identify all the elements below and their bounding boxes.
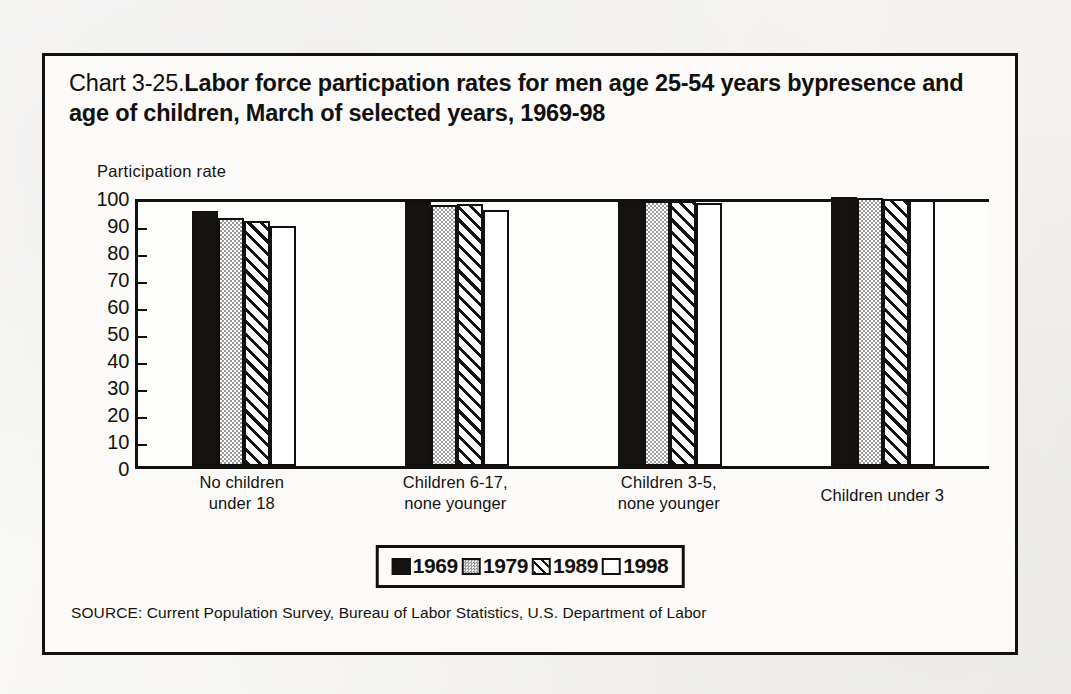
category-label-line: under 18	[135, 493, 349, 514]
y-tick-label: 10	[107, 431, 129, 454]
y-axis-tick-labels: 0102030405060708090100	[69, 199, 129, 469]
bar-1998-0	[270, 226, 296, 466]
y-tick-mark	[138, 363, 147, 365]
plot-area: 0102030405060708090100	[69, 199, 989, 469]
y-axis-label: Participation rate	[97, 162, 226, 181]
legend-label: 1989	[553, 554, 598, 578]
category-label-line: none younger	[349, 493, 563, 514]
y-tick-label: 100	[97, 188, 129, 211]
bar-1989-3	[883, 199, 909, 466]
bar-1979-0	[218, 218, 244, 466]
bar-group	[564, 202, 777, 466]
y-tick-mark	[138, 444, 147, 446]
y-tick-label: 60	[107, 296, 129, 319]
category-label-2: Children 3-5,none younger	[562, 472, 776, 532]
y-tick-mark	[138, 255, 147, 257]
bar-groups	[138, 202, 989, 466]
x-axis-category-labels: No childrenunder 18Children 6-17,none yo…	[135, 472, 989, 532]
bar-1989-2	[670, 201, 696, 466]
bar-1969-2	[618, 199, 644, 466]
y-tick-label: 90	[107, 215, 129, 238]
bar-1998-2	[696, 203, 722, 466]
y-tick-mark	[138, 309, 147, 311]
category-label-0: No childrenunder 18	[135, 472, 349, 532]
y-tick-label: 0	[118, 458, 129, 481]
category-label-3: Children under 3	[776, 472, 990, 532]
y-tick-mark	[138, 336, 147, 338]
gray-dither-swatch	[462, 558, 481, 575]
legend-entry-1979[interactable]: 1979	[462, 554, 528, 578]
bar-group	[138, 202, 351, 466]
bar-1979-3	[857, 198, 883, 466]
legend-label: 1969	[413, 554, 458, 578]
y-tick-label: 50	[107, 323, 129, 346]
chart-title: Chart 3-25.Labor force particpation rate…	[69, 68, 999, 128]
legend-entry-1998[interactable]: 1998	[602, 554, 668, 578]
category-label-line: Children under 3	[776, 485, 990, 506]
bar-1969-1	[405, 201, 431, 466]
y-tick-mark	[138, 390, 147, 392]
category-label-line: Children 6-17,	[349, 472, 563, 493]
y-tick-mark	[138, 228, 147, 230]
plot-frame	[135, 199, 989, 469]
solid-black-swatch	[392, 558, 411, 575]
diagonal-hatch-swatch	[532, 558, 551, 575]
chart-title-text: Labor force particpation rates for men a…	[69, 70, 963, 126]
bar-1979-1	[431, 205, 457, 466]
bar-1969-3	[831, 197, 857, 466]
chart-figure-frame: Chart 3-25.Labor force particpation rate…	[42, 53, 1018, 655]
bar-group	[776, 202, 989, 466]
bar-1989-1	[457, 204, 483, 466]
bar-1998-3	[909, 200, 935, 466]
y-tick-label: 80	[107, 242, 129, 265]
legend-label: 1998	[623, 554, 668, 578]
open-white-swatch	[602, 558, 621, 575]
bar-group	[351, 202, 564, 466]
category-label-line: No children	[135, 472, 349, 493]
category-label-line: Children 3-5,	[562, 472, 776, 493]
source-note: SOURCE: Current Population Survey, Burea…	[71, 604, 707, 622]
y-tick-mark	[138, 282, 147, 284]
y-tick-label: 40	[107, 350, 129, 373]
category-label-1: Children 6-17,none younger	[349, 472, 563, 532]
chart-number: Chart 3-25.	[69, 70, 184, 96]
y-tick-label: 70	[107, 269, 129, 292]
y-tick-label: 20	[107, 404, 129, 427]
legend-entry-1989[interactable]: 1989	[532, 554, 598, 578]
bar-1969-0	[192, 211, 218, 466]
y-tick-label: 30	[107, 377, 129, 400]
legend-label: 1979	[483, 554, 528, 578]
bar-1979-2	[644, 201, 670, 466]
legend-entry-1969[interactable]: 1969	[392, 554, 458, 578]
chart-legend: 1969197919891998	[376, 545, 685, 588]
bar-1989-0	[244, 221, 270, 466]
category-label-line: none younger	[562, 493, 776, 514]
y-tick-mark	[138, 417, 147, 419]
bar-1998-1	[483, 210, 509, 467]
